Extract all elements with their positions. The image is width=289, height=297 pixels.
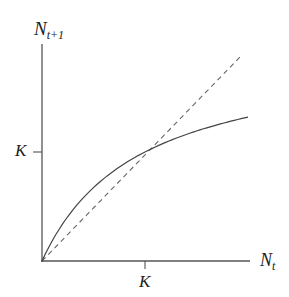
y-tick-label-k: K [15, 141, 26, 161]
x-axis-label-main: N [260, 250, 272, 270]
diagram-figure: Nt+1 Nt K K [0, 0, 289, 297]
diagram-svg [0, 0, 289, 297]
x-axis-label-subscript: t [272, 259, 275, 273]
y-axis-label-subscript: t+1 [47, 28, 64, 42]
recruitment-curve [42, 117, 248, 261]
x-tick-label-k: K [139, 272, 150, 292]
x-axis-label: Nt [260, 250, 275, 274]
y-axis-label-main: N [34, 18, 47, 39]
replacement-line-dashed [42, 56, 241, 261]
y-axis-label: Nt+1 [34, 18, 64, 43]
